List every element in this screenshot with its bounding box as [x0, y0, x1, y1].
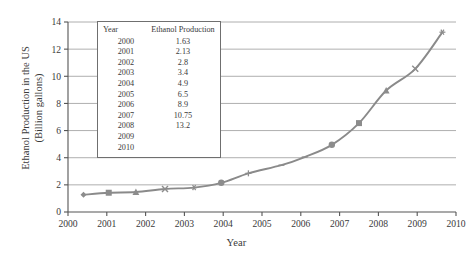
- table-cell-year: 2006: [102, 100, 150, 111]
- x-axis-tick-label: 2000: [58, 218, 77, 229]
- y-axis-tick-label: 2: [56, 179, 61, 190]
- chart-plot-area: 0246810121420002001200220032004200520062…: [0, 0, 473, 258]
- table-cell-year: 2002: [102, 58, 150, 69]
- table-cell-production: [150, 132, 216, 143]
- ethanol-production-chart-figure: 0246810121420002001200220032004200520062…: [0, 0, 473, 258]
- marker-square: [356, 120, 362, 126]
- table-cell-production: 2.8: [150, 58, 216, 69]
- table-cell-year: 2010: [102, 143, 150, 154]
- marker-cross: [412, 66, 418, 72]
- table-body: 20001.6320012.1320022.820033.420044.9200…: [102, 37, 216, 154]
- table-row: 200710.75: [102, 111, 216, 122]
- table-row: 20044.9: [102, 79, 216, 90]
- table-cell-year: 2005: [102, 90, 150, 101]
- table-header-year: Year: [102, 25, 150, 37]
- marker-circle: [218, 180, 224, 186]
- table-cell-production: 2.13: [150, 47, 216, 58]
- table-row: 20012.13: [102, 47, 216, 58]
- table-cell-year: 2009: [102, 132, 150, 143]
- x-axis-tick-label: 2008: [369, 218, 388, 229]
- table-row: 200813.2: [102, 121, 216, 132]
- marker-square: [106, 190, 112, 196]
- y-axis-title: Ethanol Production in the US (Billion ga…: [19, 28, 45, 188]
- table-header-production: Ethanol Production: [150, 25, 216, 37]
- marker-asterisk: [191, 185, 197, 190]
- table-cell-year: 2008: [102, 121, 150, 132]
- x-axis-title: Year: [0, 237, 473, 248]
- table-row: 20033.4: [102, 68, 216, 79]
- y-axis-tick-label: 10: [51, 71, 61, 82]
- y-axis-tick-label: 6: [56, 125, 61, 136]
- table-cell-production: 3.4: [150, 68, 216, 79]
- table-cell-year: 2001: [102, 47, 150, 58]
- marker-diamond: [81, 192, 87, 198]
- table-cell-year: 2004: [102, 79, 150, 90]
- table-header-row: Year Ethanol Production: [102, 25, 216, 37]
- x-axis-tick-label: 2001: [97, 218, 116, 229]
- table-cell-production: 1.63: [150, 37, 216, 48]
- y-axis-title-line-2: (Billion gallons): [32, 28, 45, 188]
- table-cell-production: [150, 143, 216, 154]
- table-cell-production: 10.75: [150, 111, 216, 122]
- y-axis-tick-label: 14: [51, 16, 61, 27]
- x-axis-tick-label: 2004: [214, 218, 233, 229]
- table-row: 2010: [102, 143, 216, 154]
- marker-circle: [329, 142, 335, 148]
- y-axis-tick-label: 12: [51, 44, 61, 55]
- table-cell-production: 8.9: [150, 100, 216, 111]
- table-row: 20056.5: [102, 90, 216, 101]
- x-axis-tick-label: 2010: [446, 218, 465, 229]
- table-cell-production: 13.2: [150, 121, 216, 132]
- y-axis-tick-label: 4: [56, 152, 61, 163]
- x-axis-tick-label: 2009: [408, 218, 427, 229]
- table-row: 20022.8: [102, 58, 216, 69]
- data-table-overlay: Year Ethanol Production 20001.6320012.13…: [97, 21, 221, 158]
- marker-plus: [245, 170, 251, 176]
- x-axis-tick-label: 2007: [330, 218, 349, 229]
- y-axis-tick-label: 8: [56, 98, 61, 109]
- table-cell-production: 4.9: [150, 79, 216, 90]
- table-row: 20068.9: [102, 100, 216, 111]
- table-cell-production: 6.5: [150, 90, 216, 101]
- ethanol-data-table: Year Ethanol Production 20001.6320012.13…: [102, 25, 216, 153]
- y-axis-title-line-1: Ethanol Production in the US: [19, 28, 32, 188]
- table-cell-year: 2003: [102, 68, 150, 79]
- x-axis-tick-label: 2002: [136, 218, 155, 229]
- table-cell-year: 2000: [102, 37, 150, 48]
- x-axis-tick-label: 2003: [175, 218, 194, 229]
- table-row: 20001.63: [102, 37, 216, 48]
- table-cell-year: 2007: [102, 111, 150, 122]
- table-row: 2009: [102, 132, 216, 143]
- y-axis-tick-label: 0: [56, 206, 61, 217]
- x-axis-tick-label: 2006: [291, 218, 310, 229]
- x-axis-tick-label: 2005: [252, 218, 271, 229]
